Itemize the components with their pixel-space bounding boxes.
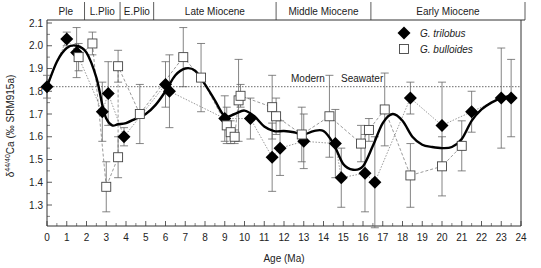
- x-tick-label: 18: [397, 232, 409, 243]
- x-tick-label: 0: [44, 232, 50, 243]
- g-trilobus-marker: [335, 171, 348, 184]
- x-tick-label: 23: [496, 232, 508, 243]
- x-tick-label: 16: [357, 232, 369, 243]
- g-trilobus-marker: [60, 32, 73, 45]
- g-bulloides-marker: [297, 130, 306, 139]
- g-trilobus-marker: [102, 87, 115, 100]
- x-tick-label: 9: [222, 232, 228, 243]
- g-trilobus-marker: [436, 119, 449, 132]
- x-tick-label: 17: [377, 232, 389, 243]
- y-tick-label: 2.0: [29, 40, 43, 51]
- g-bulloides-marker: [357, 139, 366, 148]
- x-tick-label: 2: [84, 232, 90, 243]
- x-tick-label: 14: [318, 232, 330, 243]
- x-tick-label: 5: [143, 232, 149, 243]
- x-axis-label: Age (Ma): [263, 253, 304, 264]
- x-tick-label: 12: [278, 232, 290, 243]
- y-tick-label: 1.9: [29, 63, 43, 74]
- x-tick-label: 8: [202, 232, 208, 243]
- g-bulloides-marker: [197, 73, 206, 82]
- g-bulloides-marker: [114, 153, 123, 162]
- g-bulloides-marker: [179, 53, 188, 62]
- epoch-label: E.Plio: [124, 6, 151, 17]
- y-tick-label: 1.4: [29, 177, 43, 188]
- x-tick-label: 6: [163, 232, 169, 243]
- x-tick-label: 15: [338, 232, 350, 243]
- g-bulloides-marker: [74, 53, 83, 62]
- g-trilobus-marker: [505, 92, 518, 105]
- g-bulloides-marker: [325, 112, 334, 121]
- epoch-label: Early Miocene: [416, 6, 480, 17]
- x-tick-label: 3: [103, 232, 109, 243]
- y-tick-label: 2.1: [29, 18, 43, 29]
- g-trilobus-marker: [266, 151, 279, 164]
- x-tick-label: 20: [436, 232, 448, 243]
- x-tick-label: 19: [417, 232, 429, 243]
- g-bulloides-marker: [457, 141, 466, 150]
- y-tick-label: 1.3: [29, 200, 43, 211]
- x-tick-label: 1: [64, 232, 70, 243]
- legend: G. trilobusG. bulloides: [398, 27, 473, 56]
- g-bulloides-marker: [88, 39, 97, 48]
- g-trilobus-marker: [404, 92, 417, 105]
- epoch-label: Middle Miocene: [288, 6, 358, 17]
- y-tick-label: 1.7: [29, 109, 43, 120]
- g-bulloides-marker: [135, 110, 144, 119]
- g-bulloides-marker: [272, 112, 281, 121]
- legend-label-g-bulloides: G. bulloides: [420, 44, 473, 55]
- x-tick-label: 21: [456, 232, 468, 243]
- g-bulloides-marker: [400, 45, 409, 54]
- g-trilobus-marker: [96, 105, 109, 118]
- epoch-header: PleL.PlioE.PlioLate MioceneMiddle Miocen…: [47, 2, 525, 20]
- g-trilobus-marker: [118, 130, 131, 143]
- g-trilobus-marker: [274, 142, 287, 155]
- epoch-label: L.Plio: [90, 6, 115, 17]
- g-bulloides-marker: [364, 125, 373, 134]
- g-bulloides-marker: [380, 105, 389, 114]
- x-tick-label: 4: [123, 232, 129, 243]
- g-trilobus-marker: [398, 27, 411, 40]
- x-tick-label: 13: [298, 232, 310, 243]
- reference-label: Modern: [291, 73, 325, 84]
- g-bulloides-marker: [268, 103, 277, 112]
- y-axis-label: δ44/40Ca (‰ SRM915a): [4, 75, 16, 178]
- data-markers: [41, 32, 518, 191]
- y-tick-label: 1.6: [29, 131, 43, 142]
- x-tick-label: 24: [515, 232, 527, 243]
- x-tick-label: 10: [239, 232, 251, 243]
- g-trilobus-marker: [244, 112, 257, 125]
- g-bulloides-marker: [230, 132, 239, 141]
- chart: PleL.PlioE.PlioLate MioceneMiddle Miocen…: [0, 0, 541, 268]
- g-trilobus-marker: [368, 176, 381, 189]
- g-bulloides-marker: [438, 162, 447, 171]
- y-tick-label: 1.5: [29, 154, 43, 165]
- g-bulloides-marker: [406, 171, 415, 180]
- g-bulloides-marker: [114, 62, 123, 71]
- x-tick-label: 7: [182, 232, 188, 243]
- g-bulloides-marker: [102, 182, 111, 191]
- x-tick-label: 11: [259, 232, 270, 243]
- g-bulloides-marker: [236, 91, 245, 100]
- epoch-label: Ple: [59, 6, 74, 17]
- reference-label: Seawater: [341, 73, 384, 84]
- legend-label-g-trilobus: G. trilobus: [420, 28, 466, 39]
- epoch-label: Late Miocene: [185, 6, 245, 17]
- x-tick-label: 22: [476, 232, 488, 243]
